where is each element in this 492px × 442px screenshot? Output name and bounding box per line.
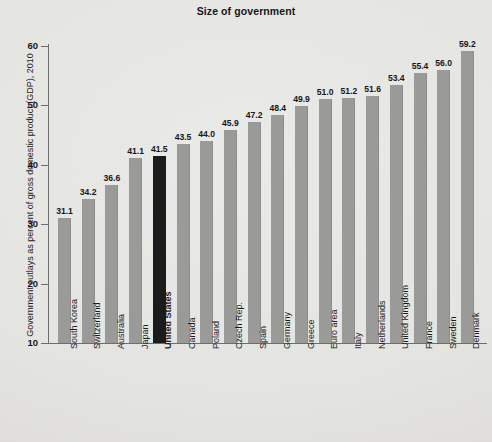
x-axis-category-label: Japan — [140, 324, 150, 349]
bar-value-label: 36.6 — [98, 173, 126, 183]
bar — [461, 51, 474, 343]
bar — [319, 99, 332, 343]
x-axis-category-label: Netherlands — [377, 300, 387, 349]
bar-value-label: 53.4 — [382, 73, 410, 83]
x-axis-category-label: Denmark — [471, 312, 481, 349]
x-axis-category-label: Switzerland — [92, 302, 102, 349]
bar — [177, 144, 190, 343]
bar — [129, 158, 142, 343]
x-axis-category-label: Canada — [187, 317, 197, 349]
x-axis-category-label: United Kingdom — [400, 285, 410, 349]
x-axis-category-label: Spain — [258, 326, 268, 349]
bar-value-label: 59.2 — [453, 39, 481, 49]
plot-area: 31.1South Korea34.2Switzerland36.6Austra… — [0, 0, 492, 442]
x-axis-category-label: Australia — [116, 314, 126, 349]
x-axis-category-label: South Korea — [69, 299, 79, 349]
x-axis-category-label: Poland — [211, 321, 221, 349]
bar — [437, 70, 450, 343]
x-axis-category-label: Euro area — [329, 309, 339, 349]
bar-value-label: 56.0 — [430, 58, 458, 68]
bar — [248, 122, 261, 343]
bar-value-label: 41.5 — [145, 144, 173, 154]
bar-value-label: 48.4 — [264, 103, 292, 113]
bar-value-label: 31.1 — [51, 206, 79, 216]
chart-page: Size of government Government outlays as… — [0, 0, 492, 442]
x-axis-category-label: Greece — [306, 319, 316, 349]
bar-value-label: 51.6 — [359, 84, 387, 94]
x-axis-category-label: Italy — [353, 332, 363, 349]
bar-value-label: 44.0 — [193, 129, 221, 139]
bar — [271, 115, 284, 343]
bar — [295, 106, 308, 343]
x-axis-category-label: Czech Rep. — [234, 302, 244, 349]
x-axis-category-label: Sweden — [448, 316, 458, 349]
bar — [200, 141, 213, 343]
x-axis-category-label: United States — [163, 291, 173, 349]
bar-value-label: 34.2 — [74, 187, 102, 197]
x-axis-category-label: Germany — [282, 312, 292, 349]
bar — [342, 98, 355, 343]
bar — [414, 73, 427, 343]
x-axis-category-label: France — [424, 321, 434, 349]
